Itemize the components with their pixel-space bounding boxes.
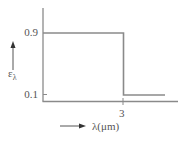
emissivity-step-line — [43, 33, 165, 95]
y-tick-label-low: 0.1 — [8, 89, 38, 100]
y-tick-label-high: 0.9 — [8, 27, 38, 38]
x-axis-label: λ(μm) — [92, 121, 119, 132]
x-tick-label: 3 — [119, 108, 125, 119]
y-axis-label-sub: λ — [13, 73, 17, 82]
arrow-right-icon — [79, 124, 86, 129]
y-axis-label: ελ — [8, 68, 17, 82]
arrow-up-icon — [11, 41, 16, 48]
